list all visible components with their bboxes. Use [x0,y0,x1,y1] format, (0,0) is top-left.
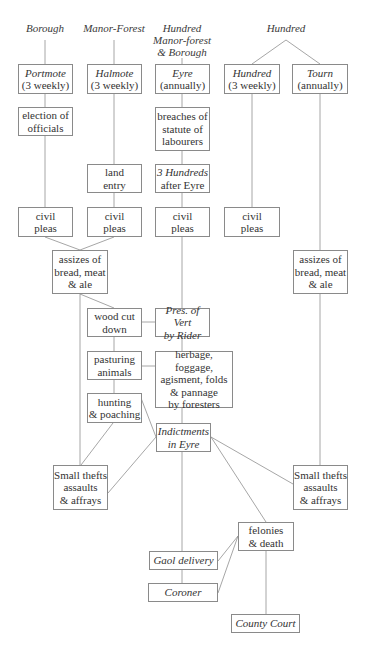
box-felonies-death: felonies & death [238,522,294,551]
box-pres-of-vert: Pres. of Vert by Rider [155,308,210,337]
box-portmote: Portmote (3 weekly) [18,64,73,94]
box-hunting-poaching: hunting & poaching [87,393,142,423]
box-sub: (annually) [160,79,205,92]
box-line: pleas [103,222,126,235]
box-gaol-delivery: Gaol delivery [149,551,218,570]
box-line: land [105,166,124,179]
box-line: officials [28,122,64,135]
box-label: Gaol delivery [153,554,213,567]
box-title: Eyre [172,67,192,80]
box-sub: (annually) [297,79,342,92]
box-breaches-statute: breaches of statute of labourers [155,107,210,151]
box-small-thefts-right: Small thefts assaults & affrays [293,465,348,510]
box-election-officials: election of officials [18,107,73,136]
box-title: Tourn [307,67,333,80]
box-title: Halmote [96,67,134,80]
box-county-court: County Court [231,614,300,633]
box-line: felonies [249,524,284,537]
box-assizes-left: assizes of bread, meat & ale [52,250,108,294]
box-label: Coroner [165,586,202,599]
box-line: by Rider [164,329,202,342]
header-borough: Borough [15,22,75,34]
box-land-entry: land entry [87,164,142,193]
box-wood-cut-down: wood cut down [87,308,142,337]
box-line: bread, meat [54,266,105,279]
box-line: assaults [63,481,97,494]
box-three-hundreds: 3 Hundreds after Eyre [155,164,210,193]
box-civil-pleas-manor: civil pleas [87,207,142,237]
box-title: Hundred [233,67,272,80]
box-line: election of [22,109,69,122]
box-civil-pleas-hundred: civil pleas [224,207,280,237]
box-line: assaults [303,481,337,494]
box-sub: (3 weekly) [228,79,275,92]
box-line: agisment, folds [160,373,227,386]
box-tourn: Tourn (annually) [292,64,348,94]
box-line: herbage, foggage, [156,348,232,373]
box-line: entry [103,179,126,192]
box-line: & affrays [300,494,342,507]
box-pasturing-animals: pasturing animals [87,351,142,380]
header-line: Hundred [147,22,217,34]
box-civil-pleas-eyre: civil pleas [155,207,210,237]
box-line: wood cut [94,310,135,323]
box-hundred-court: Hundred (3 weekly) [224,64,280,94]
box-line: & ale [308,278,332,291]
box-line: & death [248,537,283,550]
box-line: & ale [68,278,92,291]
box-line: civil [242,210,262,223]
box-line: statute of [162,123,203,136]
header-line: Manor-forest [147,34,217,46]
box-line: civil [173,210,193,223]
box-line: breaches of [157,110,207,123]
box-label: County Court [235,617,295,630]
header-hundred-manor-borough: Hundred Manor-forest & Borough [147,22,217,58]
box-small-thefts-left: Small thefts assaults & affrays [53,465,108,510]
box-halmote: Halmote (3 weekly) [87,64,142,94]
box-line: pleas [34,222,57,235]
box-assizes-right: assizes of bread, meat & ale [293,250,348,294]
box-line: bread, meat [295,266,346,279]
box-line: Small thefts [54,469,107,482]
box-line: in Eyre [168,438,200,451]
box-line: pleas [171,222,194,235]
box-herbage-foggage: herbage, foggage, agisment, folds & pann… [155,351,233,408]
box-title: 3 Hundreds [157,166,208,179]
box-line: Pres. of Vert [156,304,209,329]
box-title: Portmote [25,67,66,80]
box-line: Small thefts [294,469,347,482]
box-sub: (3 weekly) [91,79,138,92]
box-line: civil [36,210,56,223]
box-line: assizes of [59,253,101,266]
header-line: & Borough [147,46,217,58]
box-sub: (3 weekly) [22,79,69,92]
box-line: labourers [162,135,203,148]
box-line: down [102,323,126,336]
box-line: animals [97,366,131,379]
box-line: & affrays [60,494,102,507]
box-line: hunting [98,396,132,409]
box-line: & poaching [89,408,141,421]
box-indictments-in-eyre: Indictments in Eyre [156,423,211,452]
box-line: civil [105,210,125,223]
box-line: pleas [241,222,264,235]
box-line: Indictments [158,425,209,438]
box-sub: after Eyre [161,179,205,192]
box-eyre: Eyre (annually) [155,64,210,94]
box-line: pasturing [94,353,135,366]
header-manor-forest: Manor-Forest [79,22,149,34]
box-line: by foresters [168,398,220,411]
box-civil-pleas-borough: civil pleas [18,207,73,237]
box-line: & pannage [170,386,218,399]
box-line: assizes of [299,253,341,266]
header-hundred: Hundred [251,22,321,34]
box-coroner: Coroner [148,583,218,602]
